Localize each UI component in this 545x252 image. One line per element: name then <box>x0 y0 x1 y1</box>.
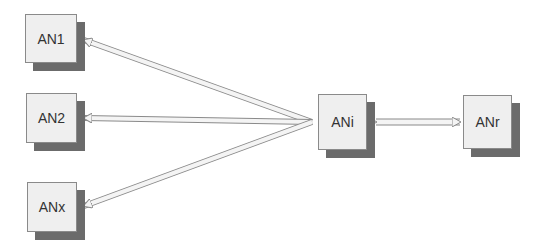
node-label: ANi <box>331 114 354 130</box>
node-box: AN2 <box>26 93 77 143</box>
arrow-ani-to-anx <box>84 122 312 206</box>
node-anx: ANx <box>27 182 77 232</box>
arrow-ani-to-an1 <box>84 40 312 122</box>
node-box: AN1 <box>25 14 77 63</box>
node-label: AN2 <box>38 110 65 126</box>
node-ani: ANi <box>318 94 367 150</box>
node-an1: AN1 <box>25 14 77 63</box>
node-anr: ANr <box>463 95 512 149</box>
node-label: ANx <box>39 199 65 215</box>
node-box: ANx <box>27 182 77 232</box>
node-box: ANi <box>318 94 367 150</box>
node-box: ANr <box>463 95 512 149</box>
node-label: AN1 <box>37 31 64 47</box>
node-label: ANr <box>475 114 499 130</box>
arrow-ani-to-an2 <box>84 118 312 122</box>
node-an2: AN2 <box>26 93 77 143</box>
